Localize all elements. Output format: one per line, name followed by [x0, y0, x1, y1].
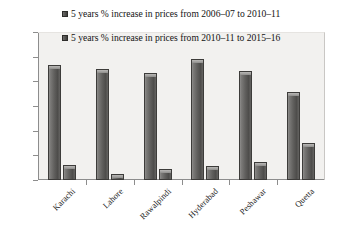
bar [239, 71, 252, 180]
legend-item-label: 5 years % increase in prices from 2010–1… [71, 32, 280, 43]
x-axis-tick-mark [277, 180, 278, 185]
bar-group [86, 32, 134, 180]
square-swatch-icon [62, 35, 68, 41]
bar [48, 65, 61, 180]
bar [111, 174, 124, 180]
x-axis-tick-label: Karachi [50, 186, 77, 213]
bar [254, 162, 267, 181]
bar-group [277, 32, 325, 180]
y-axis-tick-mark [33, 180, 38, 181]
bar [191, 59, 204, 180]
bar [302, 143, 315, 180]
square-swatch-icon [62, 11, 68, 17]
x-axis-tick-mark [229, 180, 230, 185]
bar-chart-figure: 020406080100120 KarachiLahoreRawalpindiH… [0, 0, 339, 239]
bar [206, 166, 219, 180]
bar-group [229, 32, 277, 180]
bar-group [134, 32, 182, 180]
bar [96, 69, 109, 180]
x-axis-tick-label: Hyderabad [186, 186, 220, 220]
bar [287, 92, 300, 180]
x-axis-tick-mark [86, 180, 87, 185]
bar [159, 169, 172, 180]
x-axis-tick-label: Peshawar [238, 186, 269, 217]
bar [63, 165, 76, 180]
bar-group [182, 32, 230, 180]
bar-group [38, 32, 86, 180]
legend-item: 5 years % increase in prices from 2006–0… [62, 8, 280, 19]
x-axis-tick-label: Rawalpindi [137, 186, 172, 221]
x-axis-tick-mark [182, 180, 183, 185]
x-axis-tick-mark [134, 180, 135, 185]
legend-item: 5 years % increase in prices from 2010–1… [62, 32, 280, 43]
chart-legend: 5 years % increase in prices from 2006–0… [62, 8, 280, 43]
legend-item-label: 5 years % increase in prices from 2006–0… [71, 8, 280, 19]
x-axis-tick-label: Lahore [100, 186, 125, 211]
bar [144, 73, 157, 180]
x-axis-tick-label: Quetta [293, 186, 317, 210]
